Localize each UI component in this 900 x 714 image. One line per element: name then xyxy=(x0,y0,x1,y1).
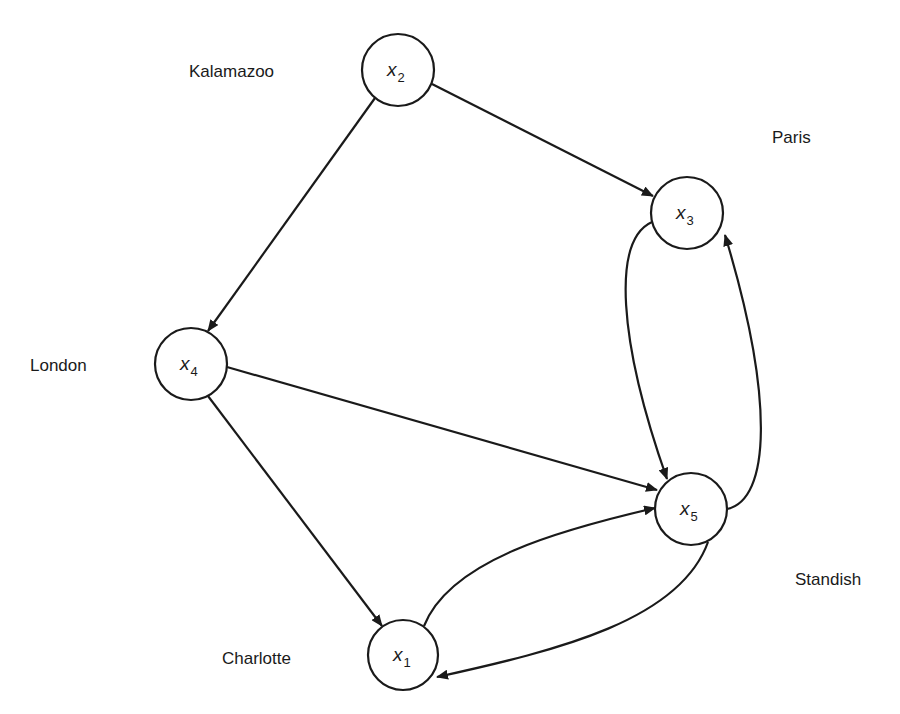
node-x4: x4 xyxy=(155,328,227,400)
node-x3: x3 xyxy=(651,177,723,249)
node-x1: x1 xyxy=(368,620,438,690)
edge-x5-x3 xyxy=(725,235,761,509)
edges xyxy=(208,84,761,677)
city-label-london: London xyxy=(30,357,87,374)
city-label-paris: Paris xyxy=(772,129,811,146)
edge-x4-x5 xyxy=(227,367,657,490)
edge-x2-x4 xyxy=(208,98,375,331)
edge-x3-x5 xyxy=(626,222,667,479)
node-x5: x5 xyxy=(655,473,727,545)
node-x2: x2 xyxy=(362,34,434,106)
edge-x2-x3 xyxy=(432,84,653,196)
graph-canvas: x2 x3 x4 x5 x1 xyxy=(0,0,900,714)
edge-x5-x1 xyxy=(437,542,708,677)
edge-x4-x1 xyxy=(208,396,382,626)
edge-x1-x5 xyxy=(424,508,655,626)
city-label-kalamazoo: Kalamazoo xyxy=(189,63,274,80)
city-label-standish: Standish xyxy=(795,571,861,588)
city-label-charlotte: Charlotte xyxy=(222,650,291,667)
